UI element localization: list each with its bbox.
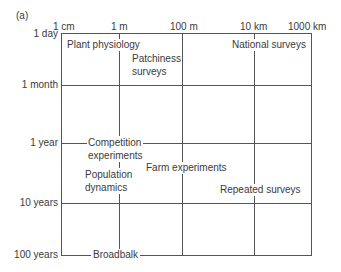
y-tick-10years: 10 years [20,197,58,209]
region-population-dynamics: Population dynamics [84,168,133,194]
y-tick-1month: 1 month [22,79,58,91]
x-tick-10km: 10 km [240,21,267,33]
y-tick-1day: 1 day [34,28,58,40]
region-patchiness-surveys: Patchiness surveys [131,52,182,78]
panel-label: (a) [16,10,28,22]
x-tick-100m: 100 m [170,21,198,33]
spatial-temporal-scale-diagram: (a) 1 cm 1 m 100 m 10 km 1000 km 1 day 1… [0,0,341,272]
region-national-surveys: National surveys [231,39,307,51]
region-farm-experiments: Farm experiments [145,162,228,174]
region-broadbalk: Broadbalk [91,249,140,261]
x-tick-1000km: 1000 km [288,21,326,33]
region-competition-experiments: Competition experiments [87,136,143,162]
y-tick-1year: 1 year [30,137,58,149]
y-tick-100years: 100 years [14,249,58,261]
region-repeated-surveys: Repeated surveys [219,184,302,196]
region-plant-physiology: Plant physiology [66,39,141,51]
x-tick-1m: 1 m [111,21,128,33]
